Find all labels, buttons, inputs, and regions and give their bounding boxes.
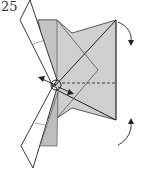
- curved-arrow-bottom: [118, 123, 131, 145]
- origami-diagram: [0, 0, 144, 173]
- arrowhead-top-icon: [128, 40, 134, 46]
- arrowhead-bottom-icon: [128, 118, 134, 124]
- arrow-left-icon: [38, 76, 45, 82]
- curved-arrow-top: [118, 22, 131, 41]
